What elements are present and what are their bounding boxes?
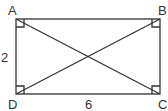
side-label-dc: 6 bbox=[85, 97, 92, 111]
vertex-label-b: B bbox=[158, 3, 167, 18]
vertex-label-a: A bbox=[8, 3, 17, 18]
vertex-label-c: C bbox=[158, 97, 167, 111]
rectangle-diagram: A B C D 2 6 bbox=[0, 0, 168, 111]
side-label-ad: 2 bbox=[1, 50, 8, 65]
vertex-label-d: D bbox=[8, 97, 17, 111]
